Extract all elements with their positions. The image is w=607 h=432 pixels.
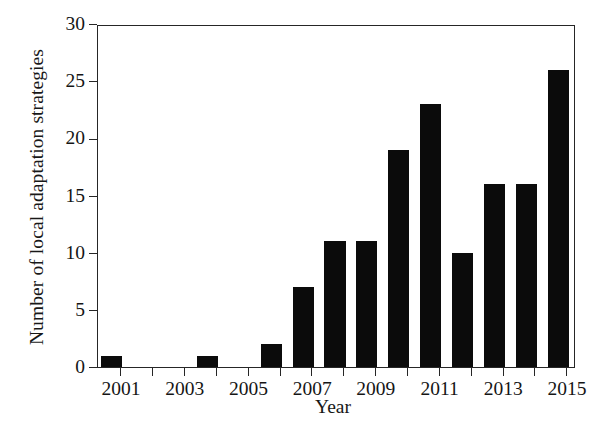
bar-2010: [388, 150, 409, 367]
bar-2006: [261, 344, 282, 367]
x-tick-mark: [216, 368, 217, 376]
x-tick-mark: [120, 368, 121, 376]
bar-2012: [452, 253, 473, 367]
x-tick-mark: [407, 368, 408, 376]
y-tick-mark: [89, 367, 97, 368]
x-axis-title: Year: [90, 396, 576, 418]
y-tick-label: 20: [66, 128, 86, 148]
y-tick-label: 10: [66, 243, 86, 263]
y-tick-mark: [89, 24, 97, 25]
y-tick-label: 25: [66, 71, 86, 91]
x-tick-mark: [471, 368, 472, 376]
y-tick-label: 30: [66, 14, 86, 34]
x-tick-mark: [248, 368, 249, 376]
x-tick-mark: [311, 368, 312, 376]
bar-chart-figure: Number of local adaptation strategies 05…: [0, 0, 607, 432]
y-tick-mark: [89, 310, 97, 311]
bar-2001: [101, 356, 122, 367]
y-tick-mark: [89, 139, 97, 140]
x-tick-mark: [343, 368, 344, 376]
bar-2013: [484, 184, 505, 367]
bar-2011: [420, 104, 441, 367]
x-tick-mark: [184, 368, 185, 376]
x-tick-mark: [439, 368, 440, 376]
x-tick-mark: [152, 368, 153, 376]
y-axis-title: Number of local adaptation strategies: [26, 12, 48, 382]
y-tick-label: 0: [75, 357, 85, 377]
y-tick-label: 15: [66, 186, 86, 206]
x-tick-mark: [566, 368, 567, 376]
plot-area: [97, 25, 575, 368]
bar-2007: [293, 287, 314, 367]
bar-series: [98, 26, 574, 367]
x-tick-mark: [503, 368, 504, 376]
bar-2004: [197, 356, 218, 367]
bar-2015: [548, 70, 569, 367]
bar-2009: [356, 241, 377, 367]
x-tick-mark: [280, 368, 281, 376]
bar-2014: [516, 184, 537, 367]
bar-2008: [324, 241, 345, 367]
y-tick-mark: [89, 81, 97, 82]
y-tick-mark: [89, 196, 97, 197]
x-tick-mark: [375, 368, 376, 376]
x-tick-mark: [534, 368, 535, 376]
y-tick-label: 5: [75, 300, 85, 320]
y-tick-mark: [89, 253, 97, 254]
